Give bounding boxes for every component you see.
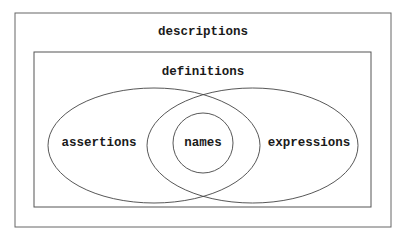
- assertions-label: assertions: [61, 136, 136, 150]
- names-label: names: [184, 136, 222, 150]
- descriptions-box: [15, 13, 391, 227]
- definitions-label: definitions: [162, 65, 245, 79]
- venn-diagram: descriptions definitions assertions name…: [0, 0, 407, 241]
- descriptions-label: descriptions: [158, 25, 248, 39]
- expressions-label: expressions: [268, 136, 351, 150]
